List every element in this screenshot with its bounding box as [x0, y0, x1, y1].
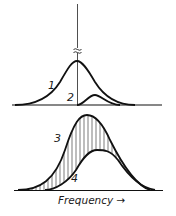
curve-4: [45, 150, 155, 190]
curve-3-label: 3: [54, 132, 61, 145]
curve-4-label: 4: [71, 172, 78, 185]
curve-1: [15, 61, 135, 105]
top-panel: 1 2: [12, 4, 162, 105]
frequency-diagram: 1 2 3 4 Frequency →: [0, 0, 176, 216]
curve-1-label: 1: [48, 79, 55, 92]
x-axis-label: Frequency →: [58, 194, 126, 206]
curve-2-label: 2: [67, 91, 74, 104]
break-mark-icon: [73, 48, 82, 53]
bottom-panel: 3 4: [14, 110, 163, 192]
hatched-region: [20, 110, 148, 192]
